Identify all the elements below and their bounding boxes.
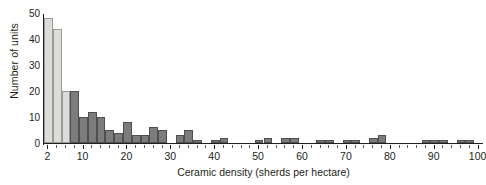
histogram-bar [88, 112, 97, 143]
x-axis-minor-tick-mark [381, 145, 382, 148]
x-axis-line [43, 143, 483, 144]
x-axis-minor-tick-mark [451, 145, 452, 148]
x-axis-minor-tick-mark [65, 145, 66, 148]
x-axis-minor-tick-mark [118, 145, 119, 148]
x-axis-minor-tick-mark [205, 145, 206, 148]
x-axis-tick-mark [170, 145, 171, 149]
x-axis-minor-tick-mark [337, 145, 338, 148]
histogram-bar [158, 130, 167, 143]
x-axis-minor-tick-mark [179, 145, 180, 148]
x-axis-minor-tick-mark [56, 145, 57, 148]
histogram-bar [79, 117, 88, 143]
x-axis-tick-label: 70 [340, 150, 352, 162]
histogram-bar [430, 140, 439, 143]
x-axis-tick-label: 100 [469, 150, 486, 162]
y-axis-tick-label: 40 [22, 35, 40, 45]
x-axis-tick-mark [434, 145, 435, 149]
x-axis-minor-tick-mark [399, 145, 400, 148]
x-axis-minor-tick-mark [153, 145, 154, 148]
histogram-bar [184, 130, 193, 143]
histogram-bar [316, 140, 325, 143]
x-axis-minor-tick-mark [442, 145, 443, 148]
x-axis-tick-label: 60 [296, 150, 308, 162]
x-axis-minor-tick-mark [135, 145, 136, 148]
x-axis-minor-tick-mark [276, 145, 277, 148]
y-axis-tick-label: 0 [22, 139, 40, 149]
x-axis-minor-tick-mark [407, 145, 408, 148]
x-axis-minor-tick-mark [197, 145, 198, 148]
histogram-bar [62, 91, 71, 143]
histogram-bar [53, 29, 62, 143]
histogram-bar [149, 127, 158, 143]
histogram-bar [422, 140, 431, 143]
x-axis-minor-tick-mark [469, 145, 470, 148]
histogram-bar [264, 138, 273, 143]
x-axis-title: Ceramic density (sherds per hectare) [43, 166, 484, 178]
histogram-bar [97, 117, 106, 143]
x-axis-tick-label: 30 [164, 150, 176, 162]
histogram-bar [105, 130, 114, 143]
histogram-bar [114, 133, 123, 143]
histogram-bar [211, 140, 220, 143]
x-axis-minor-tick-mark [320, 145, 321, 148]
histogram-bar [465, 140, 474, 143]
histogram-bar [290, 138, 299, 143]
x-axis-tick-label: 10 [77, 150, 89, 162]
x-axis-minor-tick-mark [162, 145, 163, 148]
histogram-bar [123, 122, 132, 143]
x-axis-tick-mark [302, 145, 303, 149]
y-axis-tick-label: 10 [22, 113, 40, 123]
x-axis-tick-mark [478, 145, 479, 149]
x-axis-tick-mark [47, 145, 48, 149]
histogram-bar [439, 140, 448, 143]
x-axis-minor-tick-mark [144, 145, 145, 148]
histogram-bar [351, 140, 360, 143]
x-axis-minor-tick-mark [355, 145, 356, 148]
x-axis-minor-tick-mark [232, 145, 233, 148]
x-axis-minor-tick-mark [267, 145, 268, 148]
histogram-bar [220, 138, 229, 143]
x-axis-minor-tick-mark [100, 145, 101, 148]
x-axis-tick-label: 20 [121, 150, 133, 162]
histogram-bar [255, 140, 264, 143]
x-axis-minor-tick-mark [460, 145, 461, 148]
y-axis-tick-label: 20 [22, 87, 40, 97]
x-axis-tick-mark [83, 145, 84, 149]
histogram-bar [281, 138, 290, 143]
x-axis-tick-mark [390, 145, 391, 149]
histogram-bar [44, 18, 53, 143]
x-axis-minor-tick-mark [249, 145, 250, 148]
y-axis-tick-label: 30 [22, 61, 40, 71]
x-axis-tick-label: 90 [428, 150, 440, 162]
x-axis-minor-tick-mark [372, 145, 373, 148]
x-axis-minor-tick-mark [293, 145, 294, 148]
histogram-bar [193, 140, 202, 143]
x-axis-minor-tick-mark [363, 145, 364, 148]
histogram-bar [457, 140, 466, 143]
x-axis-minor-tick-mark [425, 145, 426, 148]
histogram-bar [343, 140, 352, 143]
x-axis-tick-mark [258, 145, 259, 149]
x-axis-tick-mark [346, 145, 347, 149]
x-axis-minor-tick-mark [311, 145, 312, 148]
x-axis-tick-label: 80 [384, 150, 396, 162]
x-axis-minor-tick-mark [241, 145, 242, 148]
histogram-bar [141, 135, 150, 143]
x-axis-tick-labels: 2102030405060708090100 [0, 150, 485, 164]
x-axis-minor-tick-mark [416, 145, 417, 148]
x-axis-tick-label: 2 [44, 150, 50, 162]
y-axis-title: Number of units [8, 1, 20, 121]
y-axis-tick-label: 50 [22, 9, 40, 19]
x-axis-minor-tick-mark [74, 145, 75, 148]
x-axis-tick-mark [126, 145, 127, 149]
histogram-bar [369, 138, 378, 143]
x-axis-minor-tick-mark [223, 145, 224, 148]
x-axis-minor-tick-mark [91, 145, 92, 148]
histogram-bar [70, 91, 79, 143]
x-axis-tick-label: 50 [252, 150, 264, 162]
x-axis-minor-tick-mark [284, 145, 285, 148]
plot-area [43, 14, 483, 144]
histogram-bar [176, 135, 185, 143]
x-axis-minor-tick-mark [109, 145, 110, 148]
